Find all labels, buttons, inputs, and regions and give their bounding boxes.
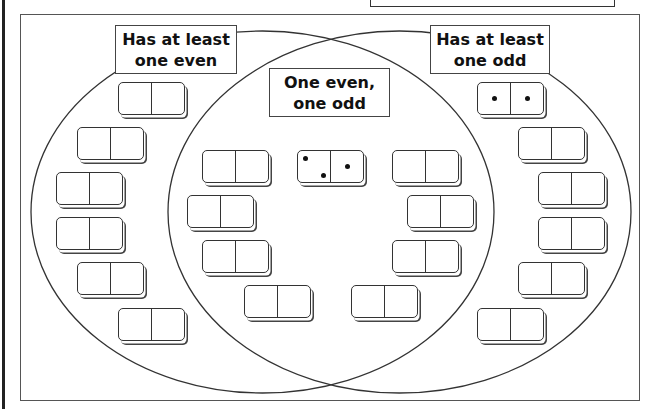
domino-odd-only[interactable]	[477, 82, 544, 115]
domino-right-half	[384, 286, 417, 317]
domino-right-half	[110, 128, 143, 159]
domino-odd-only[interactable]	[518, 127, 585, 160]
domino-intersection[interactable]	[202, 240, 269, 273]
label-has-at-least-one-odd: Has at least one odd	[430, 25, 550, 74]
domino-intersection[interactable]	[351, 285, 418, 318]
domino-left-half	[408, 196, 440, 227]
pip-dot	[321, 173, 326, 178]
domino-left-half	[78, 128, 110, 159]
domino-odd-only[interactable]	[518, 262, 585, 295]
domino-intersection[interactable]	[244, 285, 311, 318]
domino-left-half	[245, 286, 277, 317]
domino-left-half	[203, 241, 235, 272]
domino-intersection[interactable]	[187, 195, 254, 228]
domino-right-half	[425, 151, 458, 182]
domino-right-half	[235, 151, 268, 182]
domino-even-only[interactable]	[118, 82, 185, 115]
domino-odd-only[interactable]	[538, 217, 605, 250]
domino-right-half	[151, 83, 184, 114]
pip-dot	[345, 164, 350, 169]
pip-dot	[492, 96, 497, 101]
domino-odd-only[interactable]	[538, 172, 605, 205]
domino-right-half	[330, 151, 363, 182]
domino-right-half	[89, 218, 122, 249]
domino-even-only[interactable]	[118, 308, 185, 341]
domino-left-half	[393, 151, 425, 182]
domino-odd-only[interactable]	[477, 308, 544, 341]
domino-right-half	[235, 241, 268, 272]
domino-right-half	[151, 309, 184, 340]
domino-left-half	[539, 218, 571, 249]
domino-intersection[interactable]	[392, 240, 459, 273]
domino-right-half	[440, 196, 473, 227]
domino-left-half	[519, 128, 551, 159]
domino-right-half	[551, 128, 584, 159]
pip-dot	[303, 156, 308, 161]
domino-even-only[interactable]	[56, 217, 123, 250]
domino-even-only[interactable]	[56, 172, 123, 205]
domino-left-half	[519, 263, 551, 294]
domino-even-only[interactable]	[77, 262, 144, 295]
domino-left-half	[539, 173, 571, 204]
domino-right-half	[571, 173, 604, 204]
domino-intersection[interactable]	[392, 150, 459, 183]
domino-left-half	[298, 151, 330, 182]
domino-intersection[interactable]	[297, 150, 364, 183]
domino-right-half	[89, 173, 122, 204]
domino-left-half	[119, 83, 151, 114]
domino-left-half	[393, 241, 425, 272]
domino-left-half	[188, 196, 220, 227]
domino-right-half	[425, 241, 458, 272]
domino-intersection[interactable]	[202, 150, 269, 183]
domino-left-half	[352, 286, 384, 317]
domino-right-half	[277, 286, 310, 317]
domino-intersection[interactable]	[407, 195, 474, 228]
domino-right-half	[571, 218, 604, 249]
domino-left-half	[57, 173, 89, 204]
domino-right-half	[510, 83, 543, 114]
domino-right-half	[510, 309, 543, 340]
domino-left-half	[203, 151, 235, 182]
label-has-at-least-one-even: Has at least one even	[115, 25, 237, 74]
pip-dot	[525, 96, 530, 101]
label-one-even-one-odd: One even, one odd	[269, 68, 390, 117]
domino-left-half	[78, 263, 110, 294]
domino-right-half	[551, 263, 584, 294]
domino-left-half	[478, 83, 510, 114]
domino-left-half	[57, 218, 89, 249]
domino-right-half	[110, 263, 143, 294]
domino-left-half	[119, 309, 151, 340]
domino-right-half	[220, 196, 253, 227]
domino-left-half	[478, 309, 510, 340]
domino-even-only[interactable]	[77, 127, 144, 160]
